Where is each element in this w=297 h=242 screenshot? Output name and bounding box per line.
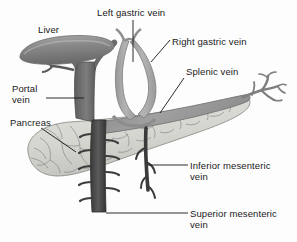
portal-vein-trunk <box>75 62 97 122</box>
leader-right-gastric-vein <box>151 40 170 62</box>
anatomy-diagram-figure: Liver Left gastric vein Right gastric ve… <box>0 0 297 242</box>
portal-accessory-vessel <box>50 66 74 70</box>
label-inferior-mesenteric-vein-line1: Inferior mesenteric <box>190 160 271 171</box>
label-portal-vein-line1: Portal <box>12 83 37 94</box>
leader-splenic-vein <box>160 78 184 113</box>
label-left-gastric-vein: Left gastric vein <box>97 7 165 18</box>
gastric-vein-loop <box>113 29 156 126</box>
left-gastric-horn <box>116 29 124 40</box>
label-portal-vein-line2: vein <box>12 94 30 105</box>
label-pancreas: Pancreas <box>10 117 51 128</box>
label-liver: Liver <box>38 24 59 35</box>
right-gastric-horn <box>133 29 141 40</box>
right-gastric-vein-limb <box>130 40 156 118</box>
label-splenic-vein: Splenic vein <box>186 66 238 77</box>
label-superior-mesenteric-vein-line2: vein <box>190 219 208 230</box>
label-superior-mesenteric-vein-line1: Superior mesenteric <box>190 208 277 219</box>
label-right-gastric-vein: Right gastric vein <box>172 36 247 47</box>
label-inferior-mesenteric-vein-line2: vein <box>190 171 208 182</box>
portal-accessory-branch-b <box>42 67 52 72</box>
